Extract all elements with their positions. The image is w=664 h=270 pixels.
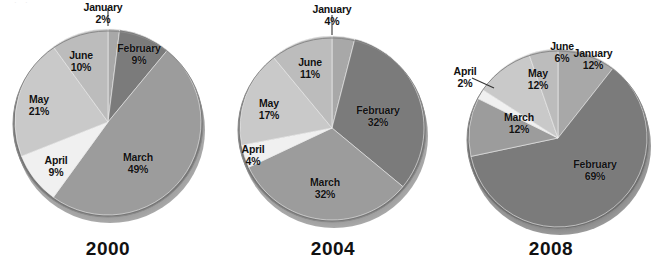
label-april-name: April — [45, 154, 68, 166]
label-march-name: March — [504, 111, 534, 123]
label-january-name: January — [313, 3, 352, 15]
label-february-pct: 32% — [342, 117, 414, 129]
label-april: April 4% — [227, 144, 279, 167]
label-february: February 69% — [560, 159, 630, 182]
label-march-name: March — [310, 176, 340, 188]
label-april-pct: 2% — [438, 78, 492, 90]
label-june-pct: 10% — [54, 62, 108, 74]
chart-title-2008: 2008 — [444, 238, 658, 260]
label-may-name: May — [259, 97, 279, 109]
label-may-pct: 21% — [13, 106, 65, 118]
figure-canvas: · · January 2% February 9% March — [0, 0, 664, 270]
label-january-pct: 2% — [60, 14, 146, 26]
label-may: May 12% — [512, 68, 564, 91]
label-april-name: April — [242, 143, 265, 155]
pie-chart-2008: January 12% February 69% March 12% April… — [450, 0, 664, 270]
chart-title-2000: 2000 — [0, 238, 220, 260]
label-may-pct: 12% — [512, 80, 564, 92]
label-june: June 10% — [54, 50, 108, 73]
label-june: June 11% — [283, 57, 337, 80]
label-february-pct: 9% — [104, 55, 174, 67]
label-may-name: May — [29, 93, 49, 105]
label-june-pct: 6% — [538, 53, 586, 65]
label-april: April 9% — [29, 155, 83, 178]
label-january-pct: 4% — [292, 16, 372, 28]
label-march: March 49% — [108, 152, 168, 175]
label-may: May 21% — [13, 94, 65, 117]
label-june-pct: 11% — [283, 69, 337, 81]
chart-title-2004: 2004 — [220, 238, 446, 260]
label-april-name: April — [454, 65, 477, 77]
label-march-pct: 32% — [294, 189, 356, 201]
label-june-name: June — [298, 56, 322, 68]
label-january: January 2% — [60, 2, 146, 25]
label-february-name: February — [356, 104, 399, 116]
label-march-pct: 49% — [108, 164, 168, 176]
pie-chart-2000: January 2% February 9% March 49% April 9… — [0, 0, 224, 270]
label-june: June 6% — [538, 41, 586, 64]
label-march-pct: 12% — [490, 124, 548, 136]
pie-svg-2008 — [450, 0, 664, 236]
label-march-name: March — [123, 151, 153, 163]
label-may-pct: 17% — [243, 110, 295, 122]
label-february: February 9% — [104, 43, 174, 66]
label-june-name: June — [550, 40, 574, 52]
label-january-name: January — [84, 1, 123, 13]
label-february: February 32% — [342, 105, 414, 128]
label-may: May 17% — [243, 98, 295, 121]
label-january: January 4% — [292, 4, 372, 27]
label-february-name: February — [117, 42, 160, 54]
label-march: March 12% — [490, 112, 548, 135]
label-march: March 32% — [294, 177, 356, 200]
label-may-name: May — [528, 67, 548, 79]
label-february-pct: 69% — [560, 171, 630, 183]
label-april: April 2% — [438, 66, 492, 89]
label-february-name: February — [573, 158, 616, 170]
label-april-pct: 4% — [227, 156, 279, 168]
pie-chart-2004: January 4% February 32% March 32% April … — [224, 0, 450, 270]
label-june-name: June — [69, 49, 93, 61]
pie-svg-2000 — [0, 0, 224, 236]
label-april-pct: 9% — [29, 167, 83, 179]
